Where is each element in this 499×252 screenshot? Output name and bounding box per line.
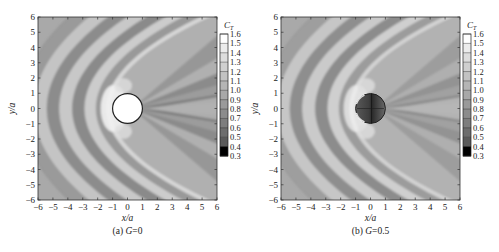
colorbar: 1.61.51.41.31.21.11.00.90.80.70.60.50.40… <box>463 20 484 161</box>
y-tick-label: −2 <box>25 134 35 144</box>
x-tick-label: −4 <box>63 202 73 212</box>
y-tick-label: 3 <box>31 58 36 68</box>
x-axis-label: x/a <box>364 213 377 223</box>
y-tick-label: 4 <box>274 43 279 53</box>
y-tick-label: −4 <box>268 165 278 175</box>
x-tick-label: −5 <box>291 202 301 212</box>
y-tick-label: 5 <box>274 27 279 37</box>
y-tick-label: −3 <box>25 149 35 159</box>
colorbar-tick-label: 0.3 <box>230 151 241 161</box>
cylinder <box>113 94 143 124</box>
x-tick-label: −4 <box>306 202 316 212</box>
x-tick-label: −1 <box>351 202 361 212</box>
x-tick-label: −5 <box>48 202 58 212</box>
y-tick-label: 2 <box>31 73 36 83</box>
colorbar-tick-label: 0.3 <box>473 151 484 161</box>
x-tick-label: 6 <box>215 202 220 212</box>
contour-plot-a: −6−5−4−3−2−10123456−6−5−4−3−2−10123456x/… <box>0 0 250 252</box>
y-tick-label: −6 <box>25 195 35 205</box>
y-tick-label: −1 <box>268 119 278 129</box>
y-tick-label: 1 <box>31 88 36 98</box>
x-tick-label: −2 <box>336 202 346 212</box>
x-tick-label: −3 <box>78 202 88 212</box>
x-tick-label: 4 <box>428 202 433 212</box>
x-tick-label: 0 <box>125 202 130 212</box>
y-axis-label: y/a <box>7 102 17 115</box>
y-tick-label: −3 <box>268 149 278 159</box>
y-tick-label: −4 <box>25 165 35 175</box>
x-axis-label: x/a <box>121 213 134 223</box>
x-tick-label: −1 <box>108 202 118 212</box>
y-axis-label: y/a <box>250 102 260 115</box>
y-tick-label: 5 <box>31 27 36 37</box>
y-tick-label: 6 <box>274 12 279 22</box>
panel-caption: (b) G=0.5 <box>352 226 390 237</box>
y-tick-label: 1 <box>274 88 279 98</box>
colorbar-title: CT <box>224 20 234 31</box>
x-tick-label: 3 <box>170 202 175 212</box>
x-tick-label: 0 <box>368 202 373 212</box>
x-tick-label: −2 <box>93 202 103 212</box>
y-tick-label: −1 <box>25 119 35 129</box>
x-tick-label: −3 <box>321 202 331 212</box>
x-tick-label: 2 <box>155 202 160 212</box>
y-tick-label: 6 <box>31 12 36 22</box>
x-tick-label: 4 <box>185 202 190 212</box>
contour-plot-b: −6−5−4−3−2−10123456−6−5−4−3−2−10123456x/… <box>243 0 493 252</box>
x-tick-label: 2 <box>398 202 403 212</box>
y-tick-label: 3 <box>274 58 279 68</box>
y-tick-label: 4 <box>31 43 36 53</box>
x-tick-label: 1 <box>140 202 145 212</box>
x-tick-label: 3 <box>413 202 418 212</box>
x-tick-label: 1 <box>383 202 388 212</box>
x-tick-label: 5 <box>200 202 205 212</box>
colorbar-title: CT <box>467 20 477 31</box>
colorbar: 1.61.51.41.31.21.11.00.90.80.70.60.50.40… <box>220 20 241 161</box>
x-tick-label: 6 <box>458 202 463 212</box>
panel-caption: (a) G=0 <box>113 226 143 237</box>
y-tick-label: 0 <box>274 104 279 114</box>
y-tick-label: −2 <box>268 134 278 144</box>
x-tick-label: 5 <box>443 202 448 212</box>
panel-b: −6−5−4−3−2−10123456−6−5−4−3−2−10123456x/… <box>243 0 493 252</box>
y-tick-label: 0 <box>31 104 36 114</box>
panel-a: −6−5−4−3−2−10123456−6−5−4−3−2−10123456x/… <box>0 0 250 252</box>
y-tick-label: −6 <box>268 195 278 205</box>
y-tick-label: 2 <box>274 73 279 83</box>
y-tick-label: −5 <box>25 180 35 190</box>
y-tick-label: −5 <box>268 180 278 190</box>
